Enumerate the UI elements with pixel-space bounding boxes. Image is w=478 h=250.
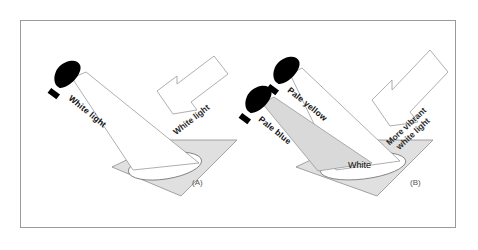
panel-a-group bbox=[42, 55, 237, 196]
panel-a-reflected-arrow bbox=[157, 56, 228, 114]
panel-b-tag: (B) bbox=[410, 178, 421, 187]
panel-b-pool-label: White bbox=[348, 160, 371, 170]
figure-container: White light White light (A) Pale yellow … bbox=[0, 0, 478, 250]
panel-a-tag: (A) bbox=[192, 178, 203, 187]
